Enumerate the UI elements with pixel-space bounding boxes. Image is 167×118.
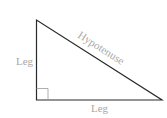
left-leg-label: Leg — [16, 55, 34, 67]
triangle-outline — [37, 20, 163, 100]
bottom-leg-label: Leg — [91, 102, 109, 114]
right-triangle-diagram: Leg Leg Hypotenuse — [0, 0, 167, 118]
right-angle-marker — [37, 89, 49, 101]
